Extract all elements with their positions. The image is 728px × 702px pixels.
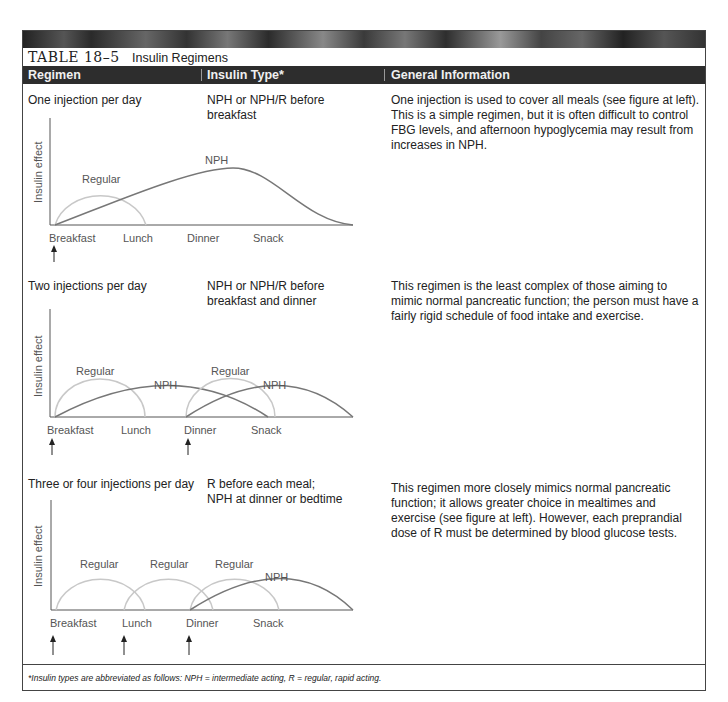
decorative-banner — [23, 31, 705, 48]
regimen-cell: Two injections per day — [28, 279, 147, 294]
general-info-cell: This regimen more closely mimics normal … — [391, 481, 701, 541]
regular-curve-dinner — [190, 579, 279, 610]
injection-arrow-icon — [49, 438, 55, 455]
table-header-row: Regimen Insulin Type* General Informatio… — [23, 66, 705, 84]
table-number: TABLE 18–5 — [28, 49, 120, 65]
x-tick-lunch: Lunch — [123, 232, 153, 244]
table-title-row: TABLE 18–5 Insulin Regimens — [23, 48, 705, 66]
header-regimen: Regimen — [28, 68, 81, 82]
y-axis-label: Insulin effect — [32, 335, 44, 397]
regular-label: Regular — [80, 558, 119, 570]
header-insulin-type: Insulin Type* — [207, 68, 284, 82]
injection-arrow-icon — [51, 245, 57, 262]
injection-arrow-icon — [50, 635, 56, 655]
x-tick-breakfast: Breakfast — [47, 424, 93, 436]
y-axis-label: Insulin effect — [32, 525, 44, 587]
x-tick-dinner: Dinner — [184, 424, 217, 436]
x-tick-lunch: Lunch — [121, 424, 151, 436]
nph-label: NPH — [205, 154, 228, 166]
nph-label: NPH — [265, 571, 288, 583]
regular-label: Regular — [82, 173, 121, 185]
insulin-type-line: NPH or NPH/R before — [207, 279, 324, 294]
nph-label: NPH — [154, 379, 177, 391]
insulin-effect-chart-one-injection: Insulin effect Regular NPH Breakfast Lun… — [23, 113, 363, 263]
nph-label: NPH — [263, 379, 286, 391]
x-tick-breakfast: Breakfast — [50, 617, 96, 629]
header-divider — [384, 69, 385, 81]
y-axis-label: Insulin effect — [32, 141, 44, 203]
regular-label: Regular — [211, 365, 250, 377]
header-general-information: General Information — [391, 68, 510, 82]
x-tick-snack: Snack — [253, 617, 284, 629]
regimen-cell: Three or four injections per day — [28, 477, 194, 492]
insulin-regimens-table: TABLE 18–5 Insulin Regimens Regimen Insu… — [22, 30, 706, 691]
injection-arrow-icon — [121, 635, 127, 655]
general-info-cell: This regimen is the least complex of tho… — [391, 279, 701, 324]
x-tick-lunch: Lunch — [122, 617, 152, 629]
general-info-cell: One injection is used to cover all meals… — [391, 93, 701, 153]
x-tick-snack: Snack — [251, 424, 282, 436]
x-tick-breakfast: Breakfast — [49, 232, 95, 244]
regimen-cell: One injection per day — [28, 93, 141, 108]
injection-arrow-icon — [186, 635, 192, 655]
footnote: *Insulin types are abbreviated as follow… — [28, 673, 381, 683]
insulin-effect-chart-two-injections: Insulin effect Regular NPH Regular NPH B… — [23, 299, 363, 459]
injection-arrow-icon — [185, 438, 191, 455]
footer-divider — [23, 664, 705, 665]
insulin-type-line: NPH or NPH/R before — [207, 93, 324, 108]
x-tick-dinner: Dinner — [187, 232, 220, 244]
x-tick-snack: Snack — [253, 232, 284, 244]
regular-label: Regular — [215, 558, 254, 570]
regular-label: Regular — [76, 365, 115, 377]
insulin-effect-chart-three-four-injections: Insulin effect Regular Regular Regular N… — [23, 497, 363, 662]
regular-curve — [55, 196, 146, 225]
x-tick-dinner: Dinner — [186, 617, 219, 629]
insulin-type-line: R before each meal; — [207, 477, 315, 492]
table-title: Insulin Regimens — [132, 51, 228, 65]
regular-label: Regular — [150, 558, 189, 570]
header-divider — [201, 69, 202, 81]
